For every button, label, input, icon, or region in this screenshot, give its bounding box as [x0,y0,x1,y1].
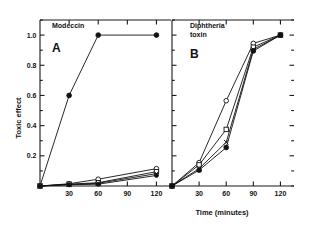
panel-a-data-series [38,33,159,189]
marker-filled-circle [67,93,72,98]
x-ticklabel: 120 [151,190,163,197]
panel-b: 306090120 Diphtheria toxin B [170,20,294,197]
scientific-line-chart: 0.20.40.60.81.0 306090120 Modeccin A 306… [0,0,313,232]
panel-b-data-series [170,33,283,189]
panel-b-title-line2: toxin [190,31,207,38]
panel-b-y-ticks [172,20,177,186]
panel-a: 0.20.40.60.81.0 306090120 Modeccin A [27,20,171,197]
panel-b-axes [172,20,294,186]
x-ticklabel: 60 [222,190,230,197]
panel-b-x-ticks [199,182,280,187]
y-ticklabel: 0.4 [27,122,37,129]
y-ticklabel: 0.8 [27,62,37,69]
marker-open-square [197,163,201,167]
series-line-series-cross [172,35,280,186]
marker-filled-circle [96,33,101,38]
series-line-series-open-circle [172,35,280,186]
series-line-series-filled-circle [172,35,280,186]
y-ticklabel: 0.6 [27,92,37,99]
marker-filled-circle [154,173,158,177]
panel-a-letter: A [52,41,61,55]
marker-open-circle [224,98,229,103]
x-ticklabel: 90 [249,190,257,197]
x-ticklabel: 30 [195,190,203,197]
panel-b-top-ticks [199,20,294,186]
panel-b-x-ticklabels: 306090120 [195,190,286,197]
marker-filled-circle [170,184,175,189]
marker-filled-circle [224,145,229,150]
x-axis-title: Time (minutes) [195,208,249,217]
series-line-series-open-square [172,35,280,186]
marker-filled-circle [38,184,42,188]
panel-b-title-line1: Diphtheria [190,22,225,30]
series-line-control [40,35,156,186]
marker-filled-circle [278,33,283,38]
panel-b-frame [172,20,294,186]
marker-filled-circle [154,33,159,38]
panel-a-title: Modeccin [52,22,84,29]
x-ticklabel: 120 [275,190,287,197]
marker-filled-circle [197,168,202,173]
panel-a-x-ticklabels: 306090120 [65,190,162,197]
figure-panel-container: 0.20.40.60.81.0 306090120 Modeccin A 306… [0,0,313,232]
marker-filled-circle [251,49,256,54]
x-ticklabel: 90 [123,190,131,197]
panel-a-y-ticks [40,20,45,186]
x-ticklabel: 60 [94,190,102,197]
marker-open-square [224,127,228,131]
marker-filled-circle [67,183,71,187]
marker-filled-circle [96,182,100,186]
panel-a-y-ticklabels: 0.20.40.60.81.0 [27,32,37,160]
x-ticklabel: 30 [65,190,73,197]
y-ticklabel: 0.2 [27,152,37,159]
y-axis-title: Toxic effect [14,97,23,139]
y-ticklabel: 1.0 [27,32,37,39]
panel-b-letter: B [190,47,199,61]
